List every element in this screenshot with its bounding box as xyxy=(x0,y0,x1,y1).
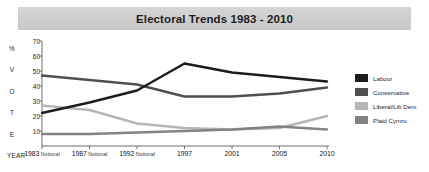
legend-label: Plaid Cymru xyxy=(373,117,407,124)
x-tick-label: 1983 Notional xyxy=(24,150,60,157)
x-tick-label: 1987 Notional xyxy=(72,150,108,157)
x-tick-label: 2001 xyxy=(224,150,239,157)
legend-swatch-icon xyxy=(355,74,368,82)
legend-item[interactable]: Plaid Cymru xyxy=(355,113,429,127)
x-tick-note: Notional xyxy=(39,151,59,157)
chart-container: Electoral Trends 1983 - 2010 % V O T E 7… xyxy=(0,0,429,172)
x-tick-year: 1992 xyxy=(119,150,134,157)
chart-legend: LabourConservativeLiberal/Lib DemPlaid C… xyxy=(355,71,429,127)
legend-item[interactable]: Labour xyxy=(355,71,429,85)
x-tick-label: 1997 xyxy=(177,150,192,157)
x-tick-year: 1987 xyxy=(72,150,87,157)
legend-label: Labour xyxy=(373,75,392,82)
x-tick-year: 2005 xyxy=(272,150,287,157)
legend-swatch-icon xyxy=(355,102,368,110)
x-tick-year: 2001 xyxy=(224,150,239,157)
x-tick-label: 2005 xyxy=(272,150,287,157)
legend-label: Conservative xyxy=(373,89,409,96)
series-line-labour xyxy=(42,64,327,114)
legend-swatch-icon xyxy=(355,88,368,96)
legend-label: Liberal/Lib Dem xyxy=(373,103,416,110)
legend-item[interactable]: Conservative xyxy=(355,85,429,99)
x-tick-note: Notional xyxy=(134,151,154,157)
x-tick-note: Notional xyxy=(87,151,107,157)
x-tick-year: 1997 xyxy=(177,150,192,157)
legend-item[interactable]: Liberal/Lib Dem xyxy=(355,99,429,113)
x-tick-year: 1983 xyxy=(24,150,39,157)
x-tick-label: 1992 Notional xyxy=(119,150,155,157)
x-axis-ticks: 1983 Notional1987 Notional1992 Notional1… xyxy=(0,150,429,164)
x-tick-year: 2010 xyxy=(319,150,334,157)
legend-swatch-icon xyxy=(355,116,368,124)
x-tick-label: 2010 xyxy=(319,150,334,157)
